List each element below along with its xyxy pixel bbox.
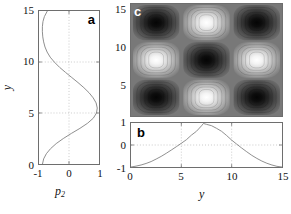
panel-b-axes: b xyxy=(130,122,283,168)
panel-c-axes: c xyxy=(130,3,283,117)
panel-a-ytick-5: 5 xyxy=(12,108,34,119)
panel-c-letter: c xyxy=(134,5,141,18)
panel-b-xtick-5: 5 xyxy=(169,171,193,182)
panel-a-ytick-15: 15 xyxy=(12,5,34,16)
figure-root: a 15 10 5 0 -1 0 1 p2 y xyxy=(0,0,291,214)
panel-a-ylabel: y xyxy=(0,80,15,96)
panel-a-xtick-0: 0 xyxy=(57,168,81,179)
panel-c-contour xyxy=(131,4,282,116)
panel-b-letter: b xyxy=(137,126,145,139)
panel-b-xtick-10: 10 xyxy=(220,171,244,182)
panel-b-curve xyxy=(131,123,282,167)
panel-c-lobes xyxy=(133,5,280,115)
panel-c-ytick-15: 15 xyxy=(104,4,126,15)
panel-c-ytick-10: 10 xyxy=(104,42,126,53)
panel-b-xtick-15: 15 xyxy=(271,171,291,182)
panel-c-ytick-5: 5 xyxy=(104,80,126,91)
panel-a-xtick-neg1: -1 xyxy=(26,168,50,179)
panel-a-xlabel: p2 xyxy=(55,184,65,199)
panel-b-xtick-0: 0 xyxy=(118,171,142,182)
panel-b-ytick-0: 0 xyxy=(104,140,126,151)
panel-a-plot xyxy=(39,11,99,164)
panel-b-ytick-1: 1 xyxy=(104,117,126,128)
panel-a-axes: a xyxy=(38,10,100,165)
panel-a-ytick-10: 10 xyxy=(12,56,34,67)
panel-a-letter: a xyxy=(88,13,95,26)
panel-b-plot xyxy=(131,123,282,167)
panel-a-curve xyxy=(42,11,97,164)
panel-b-xlabel: y xyxy=(199,187,204,202)
panel-a-ticks xyxy=(39,11,99,164)
